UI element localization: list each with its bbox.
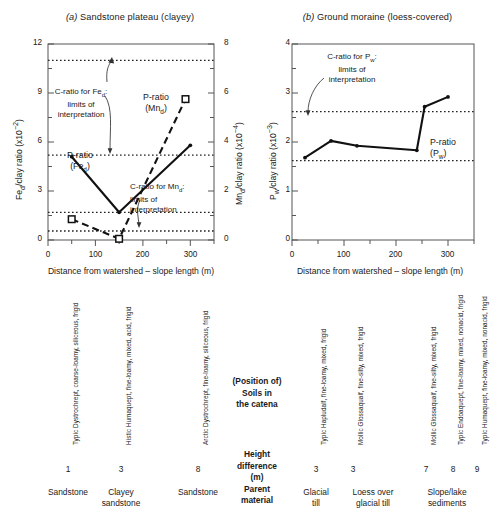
height-value-6: 7 [416,464,436,474]
anno-fe-line2: limits of [67,100,94,109]
anno-mn-line3: interpretation [130,205,177,214]
anno-p-line1: C-ratio for P [327,52,370,61]
soil-name-5: Mollic Glossaqualf, fine-silty, mixed, f… [357,326,364,445]
panel-a-xtick-100: 100 [86,250,105,259]
series-fe-label-1: P-ratio [67,150,93,160]
parent-material-4-line2: till [312,498,320,508]
position-line-1: (Position of) [233,376,282,386]
parent-material-5-line1: Loess over [353,487,394,497]
series-p-label-2: (P [430,148,439,158]
panel-a-ytick-12: 12 [26,38,42,47]
panel-b-ytick-1: 1 [278,185,290,194]
panel-b-xtick-200: 200 [386,250,405,259]
panel-a-xticks [48,240,214,246]
parent-material-6-line2: sediments [428,498,466,508]
height-value-5: 3 [343,464,363,474]
height-line-2: difference [237,461,277,471]
panel-b-xtick-0: 0 [286,250,298,259]
parent-material-2: Clayey sandstone [92,487,150,509]
parent-material-3: Sandstone [164,487,232,498]
panel-b-series-p-label: P-ratio (Pw) [430,137,480,162]
panel-b-leader-arrow [306,110,311,116]
panel-a-ytick-right-0: 0 [224,234,229,243]
anno-mn-line1: C-ratio for Mn [130,182,179,191]
series-fe-label-2: (Fe [70,161,83,171]
height-line-5: material [241,495,273,505]
panel-b-ytick-2: 2 [278,136,290,145]
height-value-8: 9 [467,464,487,474]
position-line-3: the catena [236,399,277,409]
soil-name-6: Mollic Glossaqualf, fine-silty, mixed, f… [430,326,437,445]
height-value-4: 3 [306,464,326,474]
parent-material-4-line1: Glacial [303,487,329,497]
height-value-3: 8 [188,464,208,474]
panel-a-series-mn-label: P-ratio (Mnd) [128,92,184,117]
panel-a-ytick-6: 6 [30,136,42,145]
soil-name-1: Typic Dystrochrept, coarse-loamy, silice… [72,303,79,445]
panel-b-xlabel: Distance from watershed – slope length (… [275,266,485,276]
panel-a-xtick-200: 200 [133,250,152,259]
series-mn-label-1: P-ratio [143,92,169,102]
panel-a-ytick-right-6: 6 [224,87,229,96]
soil-name-4: Typic Hapludalf, fine-loamy, mixed, frig… [320,329,327,445]
height-value-1: 1 [58,464,78,474]
anno-fe-line1: C-ratio for Fe [55,87,102,96]
height-value-7: 8 [443,464,463,474]
soil-name-7: Typic Endoaquept, fine-loamy, mixed, non… [457,295,464,445]
anno-fe-line3: interpretation [58,110,105,119]
soil-name-2: Histic Humaquept, fine-loamy, mixed, aci… [125,306,132,445]
panel-a-xtick-300: 300 [181,250,200,259]
height-line-3: (m) [250,472,263,482]
panel-b-ytick-0: 0 [278,234,290,243]
soil-name-3: Arctic Dystrochrept, fine-loamy, siliceo… [202,311,209,446]
panel-b-xticks [292,240,474,246]
panel-a-ytick-right-4: 4 [224,136,229,145]
anno-p-line3: interpretation [329,75,376,84]
height-line-4: Parent [244,484,270,494]
series-mn-label-2: (Mn [145,103,160,113]
anno-mn-line2: limits of [130,195,157,204]
catena-position-label: (Position of) Soils in the catena [215,376,299,411]
parent-material-5-line2: glacial till [356,498,390,508]
panel-b-xtick-100: 100 [334,250,353,259]
panel-a-annotation-mn: C-ratio for Mnd: limits of interpretatio… [130,182,218,215]
anno-p-line2: limits of [338,65,365,74]
panel-b-xtick-300: 300 [438,250,457,259]
parent-material-6-line1: Slope/lake [427,487,466,497]
panel-a-ytick-right-8: 8 [224,38,229,47]
series-p-label-1: P-ratio [430,137,456,147]
height-value-2: 3 [111,464,131,474]
parent-material-5: Loess over glacial till [340,487,406,509]
panel-b-annotation-p: C-ratio for Pw: limits of interpretation [306,52,398,85]
series-pw-line [305,97,448,158]
parent-material-6: Slope/lake sediments [412,487,482,509]
soil-name-8: Typic Humaquept, fine-loamy, mixed, nona… [481,296,488,445]
position-line-2: Soils in [242,388,272,398]
panel-a-ytick-3: 3 [30,185,42,194]
parent-material-4: Glacial till [290,487,342,509]
panel-a-ytick-0: 0 [30,234,42,243]
panel-b-ytick-4: 4 [278,38,290,47]
parent-material-2-line1: Clayey [108,487,134,497]
panel-a-xtick-0: 0 [42,250,54,259]
height-line-1: Height [244,449,270,459]
parent-material-2-line2: sandstone [102,498,141,508]
panel-a-annotation-fe: C-ratio for Fed: limits of interpretatio… [40,87,122,120]
figure-root: (a) Sandstone plateau (clayey) Fed/clay … [0,0,491,515]
panel-a-xlabel: Distance from watershed – slope length (… [26,266,236,276]
panel-a-yticks-left [48,44,54,240]
panel-a-series-fe-label: P-ratio (Fed) [52,150,108,175]
panel-b-yticks [292,44,298,240]
panel-a-ytick-right-2: 2 [224,185,229,194]
panel-b-ytick-3: 3 [278,87,290,96]
